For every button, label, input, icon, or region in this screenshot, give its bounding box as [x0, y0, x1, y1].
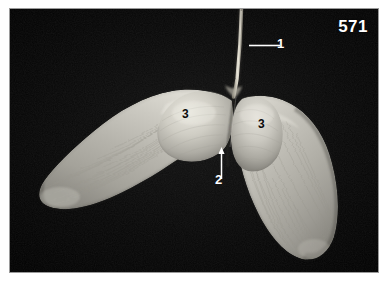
annotation-label-3-right: 3: [258, 118, 265, 130]
specimen-photograph: [10, 9, 378, 272]
photograph-plate: 571: [9, 8, 379, 273]
figure-number: 571: [338, 18, 368, 35]
annotation-label-2: 2: [215, 173, 222, 186]
annotation-label-3-left: 3: [182, 108, 189, 120]
figure-plate: 571 1 2 3 3: [0, 0, 388, 283]
annotation-label-1: 1: [277, 37, 284, 50]
